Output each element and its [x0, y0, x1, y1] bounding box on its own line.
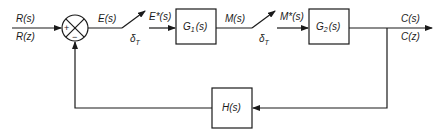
plus-sign: +	[64, 23, 69, 33]
sampled-error-label: E*(s)	[149, 11, 171, 22]
block-diagram: R(s) R(z) + − E(s) δT E*(s) G1(s) M(s) δ…	[0, 0, 440, 133]
g1-label: G1(s)	[183, 21, 207, 33]
error-label: E(s)	[98, 13, 116, 24]
sampled-m-label: M*(s)	[280, 11, 304, 22]
input-label-z: R(z)	[16, 31, 35, 42]
feedback-path-left	[75, 42, 212, 108]
output-label-z: C(z)	[401, 31, 420, 42]
sampler2-switch-icon	[252, 11, 275, 28]
sampler1-switch-icon	[122, 11, 145, 28]
input-label-s: R(s)	[16, 13, 35, 24]
output-label-s: C(s)	[401, 13, 420, 24]
sampler2-label: δT	[259, 33, 270, 46]
g2-label: G2(s)	[316, 21, 340, 33]
h-label: H(s)	[222, 102, 241, 113]
m-label: M(s)	[225, 13, 245, 24]
sampler1-label: δT	[130, 33, 141, 46]
minus-sign: −	[72, 32, 77, 42]
